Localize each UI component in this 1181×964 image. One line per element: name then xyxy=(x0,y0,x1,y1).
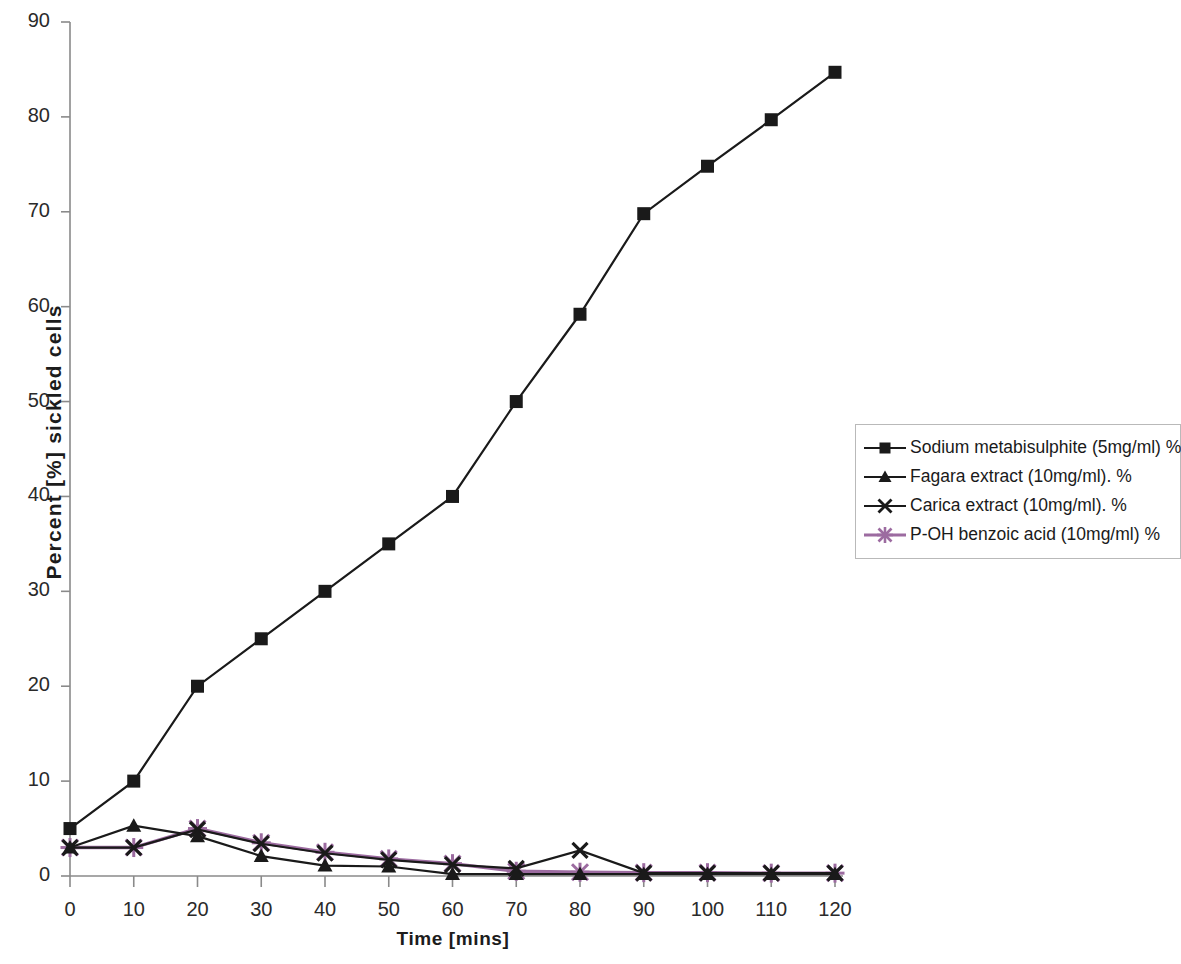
y-tick-label-30: 30 xyxy=(8,578,50,601)
marker-square xyxy=(319,585,332,598)
marker-square xyxy=(191,680,204,693)
y-tick-label-70: 70 xyxy=(8,199,50,222)
x-tick-label-80: 80 xyxy=(550,898,610,921)
chart-figure: Percent [%] sickled cells Time [mins] 01… xyxy=(0,0,1181,964)
y-tick-label-90: 90 xyxy=(8,9,50,32)
x-tick-label-0: 0 xyxy=(40,898,100,921)
x-tick-label-60: 60 xyxy=(423,898,483,921)
y-tick-label-40: 40 xyxy=(8,483,50,506)
x-tick-label-50: 50 xyxy=(359,898,419,921)
y-tick-label-10: 10 xyxy=(8,768,50,791)
marker-square xyxy=(255,632,268,645)
y-axis-title: Percent [%] sickled cells xyxy=(42,292,66,592)
legend-key-triangle-icon xyxy=(862,466,908,488)
legend-label-0: Sodium metabisulphite (5mg/ml) % xyxy=(908,439,1181,457)
x-tick-label-10: 10 xyxy=(104,898,164,921)
x-axis-title: Time [mins] xyxy=(70,928,836,950)
series-line xyxy=(70,72,835,828)
x-tick-label-20: 20 xyxy=(168,898,228,921)
chart-legend: Sodium metabisulphite (5mg/ml) % Fagara … xyxy=(855,424,1181,559)
legend-item-0[interactable]: Sodium metabisulphite (5mg/ml) % xyxy=(856,433,1180,462)
legend-label-2: Carica extract (10mg/ml). % xyxy=(908,497,1127,515)
x-tick-label-90: 90 xyxy=(614,898,674,921)
marker-triangle xyxy=(126,818,141,832)
marker-square xyxy=(574,308,587,321)
legend-item-2[interactable]: Carica extract (10mg/ml). % xyxy=(856,491,1180,520)
y-tick-label-50: 50 xyxy=(8,389,50,412)
x-tick-label-70: 70 xyxy=(486,898,546,921)
y-tick-label-80: 80 xyxy=(8,104,50,127)
series-square xyxy=(64,66,842,835)
marker-square xyxy=(446,490,459,503)
legend-key-square-icon xyxy=(862,437,908,459)
legend-label-1: Fagara extract (10mg/ml). % xyxy=(908,468,1132,486)
marker-square xyxy=(64,822,77,835)
x-tick-label-30: 30 xyxy=(231,898,291,921)
legend-label-3: P-OH benzoic acid (10mg/ml) % xyxy=(908,526,1160,544)
y-tick-label-60: 60 xyxy=(8,294,50,317)
marker-square xyxy=(510,395,523,408)
series-triangle xyxy=(63,818,843,880)
marker-square xyxy=(829,66,842,79)
x-tick-label-120: 120 xyxy=(805,898,865,921)
legend-item-3[interactable]: P-OH benzoic acid (10mg/ml) % xyxy=(856,520,1180,549)
legend-key-star-icon xyxy=(862,524,908,546)
y-tick-label-20: 20 xyxy=(8,673,50,696)
y-tick-label-0: 0 xyxy=(8,863,50,886)
marker-square xyxy=(765,113,778,126)
x-tick-label-110: 110 xyxy=(741,898,801,921)
marker-square xyxy=(382,537,395,550)
legend-item-1[interactable]: Fagara extract (10mg/ml). % xyxy=(856,462,1180,491)
x-tick-label-40: 40 xyxy=(295,898,355,921)
marker-square xyxy=(637,207,650,220)
legend-key-cross-icon xyxy=(862,495,908,517)
x-tick-label-100: 100 xyxy=(678,898,738,921)
marker-square xyxy=(127,775,140,788)
marker-square xyxy=(701,160,714,173)
